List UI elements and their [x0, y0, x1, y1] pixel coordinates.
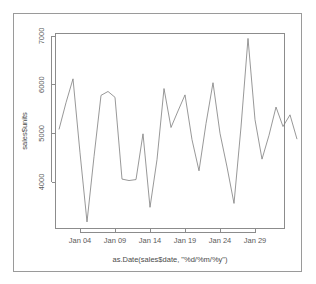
plot-canvas: 4000500060007000 Jan 04Jan 09Jan 14Jan 1…	[0, 0, 316, 284]
x-tick-label: Jan 04	[69, 236, 92, 245]
x-tick-label: Jan 29	[244, 236, 267, 245]
x-tick-labels-group: Jan 04Jan 09Jan 14Jan 19Jan 24Jan 29	[69, 236, 267, 245]
x-axis	[80, 229, 255, 233]
y-tick-label: 4000	[37, 174, 46, 191]
y-tick-label: 7000	[37, 28, 46, 45]
x-axis-title: as.Date(sales$date, "%d/%m/%y")	[113, 255, 228, 264]
y-axis	[52, 36, 56, 182]
y-tick-label: 5000	[37, 125, 46, 142]
x-tick-label: Jan 24	[209, 236, 232, 245]
y-tick-labels-group: 4000500060007000	[37, 28, 46, 191]
r-plot-screenshot: 4000500060007000 Jan 04Jan 09Jan 14Jan 1…	[0, 0, 316, 284]
x-tick-label: Jan 09	[104, 236, 127, 245]
sales-units-line-series	[59, 38, 297, 221]
x-tick-marks	[80, 229, 255, 233]
y-tick-marks	[52, 36, 56, 182]
x-tick-label: Jan 14	[139, 236, 162, 245]
y-tick-label: 6000	[37, 76, 46, 93]
y-axis-title: sales$units	[20, 112, 29, 150]
x-tick-label: Jan 19	[174, 236, 197, 245]
